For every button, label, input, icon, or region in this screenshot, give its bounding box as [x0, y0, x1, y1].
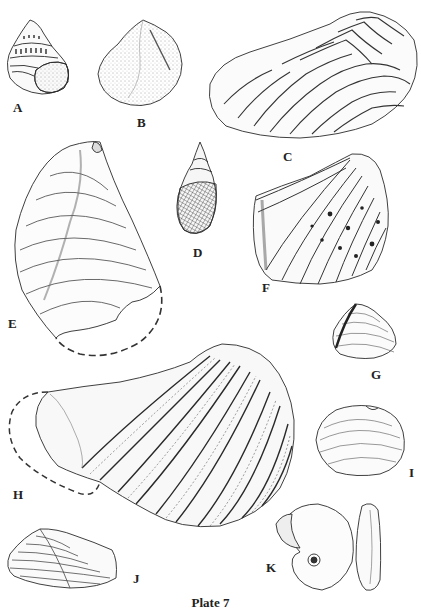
figure-label-j: J	[133, 572, 140, 585]
figure-k-ammonoid	[276, 504, 381, 591]
figure-e-bivalve	[15, 142, 162, 356]
figure-label-h: H	[13, 488, 23, 501]
figure-label-k: K	[266, 561, 276, 574]
figure-d-gastropod	[177, 142, 217, 234]
figure-label-i: I	[409, 466, 414, 479]
plate-illustrations	[0, 0, 421, 612]
figure-g-bivalve	[333, 304, 396, 359]
figure-c-bivalve	[209, 12, 417, 138]
figure-h-bivalve	[9, 344, 294, 527]
figure-f-bivalve	[253, 154, 388, 284]
figure-label-g: G	[371, 368, 381, 381]
fossil-plate: A B C D E F G H I J K Plate 7	[0, 0, 421, 612]
figure-i-bivalve	[316, 406, 404, 476]
figure-a-gastropod	[7, 20, 68, 94]
figure-label-d: D	[193, 246, 202, 259]
figure-j-bivalve	[8, 529, 117, 588]
figure-label-a: A	[13, 101, 22, 114]
figure-b-bivalve	[98, 20, 182, 106]
figure-label-c: C	[283, 150, 292, 163]
figure-label-b: B	[137, 116, 146, 129]
figure-label-f: F	[262, 281, 270, 294]
plate-caption: Plate 7	[0, 595, 421, 611]
figure-label-e: E	[8, 317, 17, 330]
